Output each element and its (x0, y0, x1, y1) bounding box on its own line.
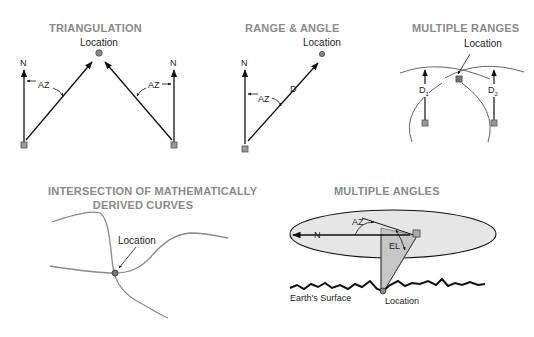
station-marker-right (171, 142, 177, 148)
location-dot (319, 51, 324, 56)
label-location: Location (385, 296, 419, 306)
label-location: Location (118, 235, 156, 246)
label-location: Location (464, 38, 502, 49)
label-az-left: AZ (38, 80, 50, 90)
title-multiple-ranges: MULTIPLE RANGES (412, 22, 519, 34)
title-multiple-angles: MULTIPLE ANGLES (334, 185, 440, 197)
title-intersection-line2: DERIVED CURVES (48, 198, 238, 212)
label-location: Location (80, 37, 118, 48)
label-location: Location (303, 37, 341, 48)
label-el: EL (389, 241, 400, 251)
triangulation-diagram (21, 50, 177, 148)
station-marker-left (21, 142, 27, 148)
label-north-left: N (20, 58, 27, 68)
label-d1: D1 (419, 85, 429, 97)
multiple-ranges-diagram (400, 54, 524, 142)
station-marker (242, 146, 248, 152)
label-north: N (241, 58, 248, 68)
bearing-arrow-left (26, 62, 92, 140)
location-dot (112, 270, 118, 276)
title-intersection-line1: INTERSECTION OF MATHEMATICALLY (48, 184, 238, 198)
range-angle-diagram (242, 51, 325, 152)
sensor-marker (413, 230, 420, 237)
location-dot (380, 288, 386, 294)
label-d2: D2 (488, 85, 498, 97)
intersection-diagram (50, 212, 228, 318)
title-intersection: INTERSECTION OF MATHEMATICALLY DERIVED C… (48, 184, 238, 212)
location-marker (456, 76, 462, 82)
title-range-angle: RANGE & ANGLE (245, 22, 339, 34)
label-north: N (314, 230, 321, 240)
label-az-right: AZ (148, 80, 160, 90)
bearing-arrow-right (105, 62, 172, 140)
diagram-canvas (0, 0, 534, 337)
location-dot (96, 50, 102, 56)
label-distance: D (290, 84, 297, 94)
title-triangulation: TRIANGULATION (49, 22, 142, 34)
label-az: AZ (258, 94, 270, 104)
multiple-angles-diagram (290, 210, 496, 294)
label-north-right: N (170, 58, 177, 68)
label-earth-surface: Earth's Surface (290, 293, 351, 303)
label-az: AZ (352, 217, 364, 227)
